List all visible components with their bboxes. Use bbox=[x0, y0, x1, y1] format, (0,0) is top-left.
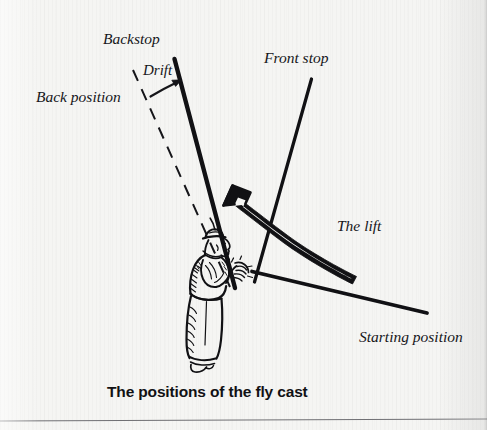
fly-cast-illustration bbox=[0, 0, 487, 430]
drift-arrow bbox=[151, 80, 182, 97]
back-position-line bbox=[133, 70, 230, 287]
figure-caption: The positions of the fly cast bbox=[107, 383, 308, 401]
rod-position-lines bbox=[133, 59, 427, 313]
label-the-lift: The lift bbox=[337, 218, 381, 234]
fly-cast-diagram-page: Backstop Drift Back position Front stop … bbox=[0, 0, 487, 430]
label-drift: Drift bbox=[143, 63, 172, 78]
page-bottom-rule bbox=[0, 419, 487, 421]
label-back-position: Back position bbox=[36, 89, 121, 105]
label-front-stop: Front stop bbox=[264, 50, 328, 66]
label-backstop: Backstop bbox=[103, 31, 160, 47]
angler-figure bbox=[187, 218, 253, 372]
lift-arrow bbox=[224, 186, 357, 285]
label-starting-position: Starting position bbox=[359, 329, 463, 345]
